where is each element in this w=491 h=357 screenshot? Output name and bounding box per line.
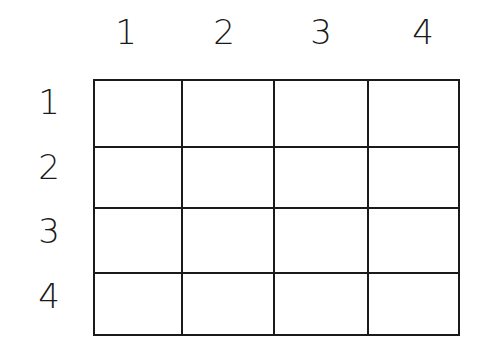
column-label-3: 3 <box>310 12 332 52</box>
row-label-3: 3 <box>37 211 61 251</box>
row-label-2: 2 <box>37 147 61 187</box>
grid-cell-1-4 <box>369 81 458 146</box>
row-label-4: 4 <box>37 276 61 316</box>
grid-cell-2-4 <box>369 148 458 207</box>
grid-cell-3-2 <box>183 209 273 272</box>
column-label-4: 4 <box>412 12 434 52</box>
grid-cell-2-2 <box>183 148 273 207</box>
grid-cell-4-3 <box>275 274 367 334</box>
grid-cell-2-1 <box>95 148 181 207</box>
grid-cell-3-1 <box>95 209 181 272</box>
grid-cell-1-2 <box>183 81 273 146</box>
grid-cell-2-3 <box>275 148 367 207</box>
column-label-1: 1 <box>115 12 137 52</box>
grid-cell-4-4 <box>369 274 458 334</box>
grid-cell-3-4 <box>369 209 458 272</box>
row-label-1: 1 <box>37 82 61 122</box>
grid-cell-4-2 <box>183 274 273 334</box>
grid-cell-1-1 <box>95 81 181 146</box>
column-label-2: 2 <box>213 12 235 52</box>
grid-cell-4-1 <box>95 274 181 334</box>
grid-cell-3-3 <box>275 209 367 272</box>
grid-cell-1-3 <box>275 81 367 146</box>
